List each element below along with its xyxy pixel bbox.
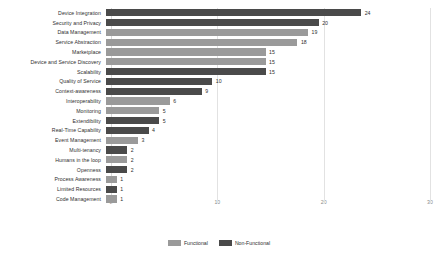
- bar-functional[interactable]: [106, 137, 138, 144]
- category-label: Extendibility: [0, 118, 106, 124]
- bar-track: 6: [106, 96, 438, 106]
- bar-row: Data Management19: [0, 28, 438, 38]
- category-label: Quality of Service: [0, 78, 106, 84]
- bar-track: 4: [106, 126, 438, 136]
- legend-swatch-icon: [219, 240, 232, 246]
- bar-nonfunctional[interactable]: [106, 19, 319, 26]
- bar-nonfunctional[interactable]: [106, 9, 361, 16]
- bar-value-label: 18: [301, 39, 307, 45]
- bar-value-label: 2: [131, 167, 134, 173]
- bar-value-label: 15: [269, 59, 275, 65]
- bar-functional[interactable]: [106, 156, 127, 163]
- bar-value-label: 24: [365, 10, 371, 16]
- bar-track: 2: [106, 165, 438, 175]
- bar-functional[interactable]: [106, 58, 266, 65]
- bar-row: Context-awareness9: [0, 86, 438, 96]
- bar-row: Extendibility5: [0, 116, 438, 126]
- category-label: Marketplace: [0, 49, 106, 55]
- bar-functional[interactable]: [106, 48, 266, 55]
- bar-chart: Device Integration24Security and Privacy…: [0, 0, 438, 264]
- category-label: Code Management: [0, 196, 106, 202]
- category-label: Security and Privacy: [0, 20, 106, 26]
- bar-functional[interactable]: [106, 29, 308, 36]
- bar-row: Security and Privacy20: [0, 18, 438, 28]
- bar-row: Limited Resources1: [0, 184, 438, 194]
- bar-value-label: 1: [120, 196, 123, 202]
- bar-row: Quality of Service10: [0, 77, 438, 87]
- bar-row: Humans in the loop2: [0, 155, 438, 165]
- bar-nonfunctional[interactable]: [106, 166, 127, 173]
- legend-item[interactable]: Functional: [168, 240, 208, 246]
- bar-value-label: 20: [322, 20, 328, 26]
- bar-row: Event Management3: [0, 135, 438, 145]
- bar-functional[interactable]: [106, 39, 297, 46]
- bar-nonfunctional[interactable]: [106, 68, 266, 75]
- bar-track: 18: [106, 37, 438, 47]
- bar-nonfunctional[interactable]: [106, 127, 149, 134]
- bar-row: Monitoring5: [0, 106, 438, 116]
- bar-track: 2: [106, 145, 438, 155]
- bar-track: 10: [106, 77, 438, 87]
- bar-nonfunctional[interactable]: [106, 186, 117, 193]
- bar-row: Device Integration24: [0, 8, 438, 18]
- bar-value-label: 2: [131, 147, 134, 153]
- bar-value-label: 19: [312, 29, 318, 35]
- bar-nonfunctional[interactable]: [106, 117, 159, 124]
- category-label: Humans in the loop: [0, 157, 106, 163]
- bar-functional[interactable]: [106, 97, 170, 104]
- legend-item[interactable]: Non-Functional: [219, 240, 270, 246]
- category-label: Event Management: [0, 137, 106, 143]
- bar-track: 2: [106, 155, 438, 165]
- bar-row: Service Abstraction18: [0, 37, 438, 47]
- category-label: Scalability: [0, 69, 106, 75]
- bar-value-label: 3: [141, 137, 144, 143]
- category-label: Multi-tenancy: [0, 147, 106, 153]
- bar-row: Scalability15: [0, 67, 438, 77]
- bar-row: Process Awareness1: [0, 175, 438, 185]
- category-label: Service Abstraction: [0, 39, 106, 45]
- category-label: Monitoring: [0, 108, 106, 114]
- category-label: Context-awareness: [0, 88, 106, 94]
- bar-track: 20: [106, 18, 438, 28]
- bar-track: 15: [106, 57, 438, 67]
- bar-nonfunctional[interactable]: [106, 88, 202, 95]
- bar-track: 5: [106, 116, 438, 126]
- legend-label: Non-Functional: [235, 240, 270, 246]
- bar-track: 3: [106, 135, 438, 145]
- bar-track: 24: [106, 8, 438, 18]
- bar-functional[interactable]: [106, 107, 159, 114]
- bar-track: 5: [106, 106, 438, 116]
- chart-legend: FunctionalNon-Functional: [0, 240, 438, 246]
- bar-value-label: 15: [269, 69, 275, 75]
- bar-value-label: 1: [120, 176, 123, 182]
- category-label: Limited Resources: [0, 186, 106, 192]
- bar-track: 9: [106, 86, 438, 96]
- bar-value-label: 9: [205, 88, 208, 94]
- bar-functional[interactable]: [106, 195, 117, 202]
- plot-area: Device Integration24Security and Privacy…: [0, 8, 438, 213]
- bar-track: 15: [106, 47, 438, 57]
- bar-row: Multi-tenancy2: [0, 145, 438, 155]
- legend-swatch-icon: [168, 240, 181, 246]
- bar-track: 1: [106, 194, 438, 204]
- category-label: Data Management: [0, 29, 106, 35]
- bar-row: Marketplace15: [0, 47, 438, 57]
- bar-row: Interoperability6: [0, 96, 438, 106]
- bar-row: Device and Service Discovery15: [0, 57, 438, 67]
- bar-track: 1: [106, 175, 438, 185]
- bar-value-label: 5: [163, 118, 166, 124]
- bar-value-label: 2: [131, 157, 134, 163]
- category-label: Device and Service Discovery: [0, 59, 106, 65]
- category-label: Openness: [0, 167, 106, 173]
- bar-value-label: 4: [152, 127, 155, 133]
- bar-value-label: 15: [269, 49, 275, 55]
- bar-functional[interactable]: [106, 176, 117, 183]
- bar-nonfunctional[interactable]: [106, 146, 127, 153]
- bar-value-label: 1: [120, 186, 123, 192]
- bar-track: 19: [106, 28, 438, 38]
- category-label: Real-Time Capability: [0, 127, 106, 133]
- bar-nonfunctional[interactable]: [106, 78, 212, 85]
- bar-row: Code Management1: [0, 194, 438, 204]
- legend-label: Functional: [184, 240, 208, 246]
- category-label: Device Integration: [0, 10, 106, 16]
